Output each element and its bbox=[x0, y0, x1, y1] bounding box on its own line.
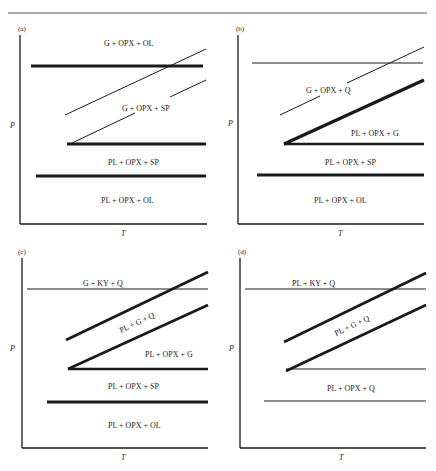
panel-d-x-axis-label: T bbox=[339, 453, 344, 462]
panel-a-field-label: G + OPX + OL bbox=[104, 39, 154, 48]
panel-a-x-axis-label: T bbox=[121, 229, 126, 238]
panel-a-reaction-line bbox=[70, 113, 135, 144]
panel-a-tag: (a) bbox=[18, 25, 26, 33]
panel-c: (c) P T G + KY + Q PL + G + Q PL + OPX +… bbox=[9, 248, 208, 462]
panel-d-field-label: PL + KY + Q bbox=[292, 279, 335, 288]
panel-a-y-axis-label: P bbox=[9, 121, 15, 130]
panel-c-field-label: PL + OPX + OL bbox=[108, 421, 161, 430]
panel-a-field-label: PL + OPX + OL bbox=[101, 196, 154, 205]
panel-d-reaction-line bbox=[286, 305, 426, 371]
panel-c-x-axis-label: T bbox=[121, 453, 126, 462]
panel-a: (a) P T G + OPX + OL G + OPX + SP PL + O… bbox=[9, 25, 207, 238]
panel-d: (d) P T PL + KY + Q PL + G + Q PL + OPX … bbox=[228, 248, 426, 462]
panel-c-field-label: PL + OPX + SP bbox=[108, 382, 160, 391]
panel-b-x-axis-label: T bbox=[338, 229, 343, 238]
panel-d-tag: (d) bbox=[238, 248, 247, 256]
panel-b-reaction-line bbox=[347, 47, 424, 83]
panel-c-y-axis-label: P bbox=[9, 344, 15, 353]
panel-b-field-label: G + OPX + Q bbox=[306, 86, 351, 95]
phase-diagram-figure: (a) P T G + OPX + OL G + OPX + SP PL + O… bbox=[0, 0, 436, 471]
panel-b: (b) P T G + OPX + Q PL + OPX + G PL + OP… bbox=[227, 25, 424, 238]
panel-c-field-label: PL + OPX + G bbox=[145, 350, 193, 359]
panel-b-field-label: PL + OPX + G bbox=[351, 129, 399, 138]
panel-b-tag: (b) bbox=[236, 25, 245, 33]
panel-c-reaction-line bbox=[68, 305, 208, 369]
panel-d-y-axis-label: P bbox=[228, 344, 234, 353]
panel-b-reaction-line bbox=[280, 96, 320, 115]
panel-b-field-label: PL + OPX + OL bbox=[314, 196, 367, 205]
panel-a-reaction-line bbox=[170, 80, 206, 97]
panel-c-tag: (c) bbox=[18, 248, 26, 256]
panel-a-field-label: PL + OPX + SP bbox=[108, 158, 160, 167]
panel-a-field-label: G + OPX + SP bbox=[122, 104, 170, 113]
panel-b-y-axis-label: P bbox=[227, 119, 233, 128]
panel-b-field-label: PL + OPX + SP bbox=[325, 158, 377, 167]
panel-d-field-label: PL + OPX + Q bbox=[327, 384, 375, 393]
panel-c-field-label: G + KY + Q bbox=[83, 279, 123, 288]
